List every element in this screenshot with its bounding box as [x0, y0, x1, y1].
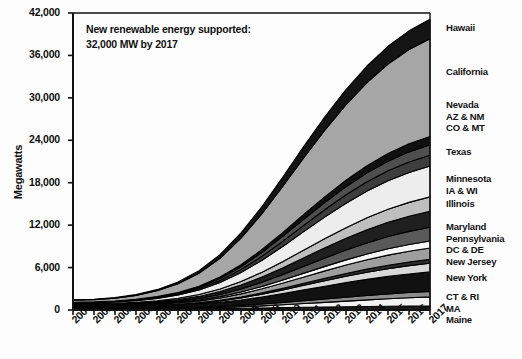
legend-label: New York — [446, 272, 487, 284]
legend-label: Maine — [446, 314, 479, 326]
legend-label: AZ & NM — [446, 111, 485, 123]
legend-group-maryland-pa-dc-nj: MarylandPennsylvaniaDC & DENew Jersey — [446, 221, 504, 267]
legend-label: MA — [446, 303, 479, 315]
chart-figure: 06,00012,00018,00024,00030,00036,00042,0… — [0, 0, 522, 359]
legend-group-ct-ri-ma-maine: CT & RIMAMaine — [446, 291, 479, 326]
legend-group-texas: Texas — [446, 146, 471, 158]
legend-group-illinois: Illinois — [446, 198, 475, 210]
legend-group-california: California — [446, 66, 488, 78]
legend-label: IA & WI — [446, 185, 491, 197]
legend-group-minnesota-ia-wi: MinnesotaIA & WI — [446, 173, 491, 196]
legend-label: Pennsylvania — [446, 233, 504, 245]
legend-label: DC & DE — [446, 244, 504, 256]
legend-group-hawaii: Hawaii — [446, 22, 475, 34]
legend-label: Minnesota — [446, 173, 491, 185]
legend-label: CO & MT — [446, 122, 485, 134]
legend-label: Nevada — [446, 99, 485, 111]
legend-label: California — [446, 66, 488, 78]
legend-label: Texas — [446, 146, 471, 158]
legend-label: Hawaii — [446, 22, 475, 34]
chart-annotation: New renewable energy supported: 32,000 M… — [86, 22, 306, 52]
legend-label: CT & RI — [446, 291, 479, 303]
legend-group-new-york: New York — [446, 272, 487, 284]
legend-label: Maryland — [446, 221, 504, 233]
legend-label: New Jersey — [446, 256, 504, 268]
legend-group-nevada-az-co: NevadaAZ & NMCO & MT — [446, 99, 485, 134]
legend-label: Illinois — [446, 198, 475, 210]
series-legend: HawaiiCaliforniaNevadaAZ & NMCO & MTTexa… — [446, 0, 522, 359]
